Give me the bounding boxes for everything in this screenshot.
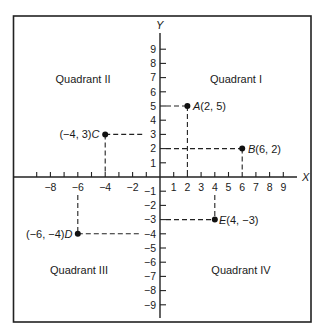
y-tick-label: 7 <box>150 71 156 83</box>
quadrant-i-label: Quadrant I <box>210 73 262 85</box>
point-c-dot <box>102 131 108 137</box>
point-a-dot <box>184 103 190 109</box>
x-tick-label: 2 <box>184 181 190 193</box>
y-tick-label: −7 <box>144 270 156 282</box>
x-tick-label: 5 <box>226 181 232 193</box>
y-tick-label: −8 <box>144 284 156 296</box>
y-tick-label: −2 <box>144 199 156 211</box>
point-e-label: E(4, −3) <box>219 214 258 226</box>
y-tick-label: −6 <box>144 256 156 268</box>
x-tick-label: 4 <box>212 181 218 193</box>
point-c-label: (−4, 3)C <box>59 128 99 140</box>
point-d-name: D <box>65 228 73 240</box>
x-tick-label: 1 <box>171 181 177 193</box>
y-tick-label: 2 <box>150 142 156 154</box>
point-d-coords: (−6, −4) <box>26 228 65 240</box>
y-tick-label: 3 <box>150 128 156 140</box>
point-a-name: A <box>192 100 200 112</box>
x-tick-label: 8 <box>267 181 273 193</box>
y-tick-label: 5 <box>150 100 156 112</box>
y-tick-label: −1 <box>144 185 156 197</box>
point-b-coords: (6, 2) <box>255 143 281 155</box>
point-b-dot <box>239 146 245 152</box>
quadrant-iii-label: Quadrant III <box>50 264 108 276</box>
point-a-coords: (2, 5) <box>200 100 226 112</box>
quadrant-ii-label: Quadrant II <box>55 73 110 85</box>
y-tick-label: 4 <box>150 114 156 126</box>
point-c-coords: (−4, 3) <box>59 128 91 140</box>
y-tick-label: −5 <box>144 242 156 254</box>
y-tick-label: −4 <box>144 228 156 240</box>
x-tick-label: −4 <box>99 181 111 193</box>
quadrant-iv-label: Quadrant IV <box>211 264 271 276</box>
y-tick-label: −9 <box>144 299 156 311</box>
y-tick-label: −3 <box>144 213 156 225</box>
x-tick-label: 7 <box>253 181 259 193</box>
x-axis-label: X <box>301 171 310 183</box>
point-c-name: C <box>92 128 100 140</box>
y-tick-label: 1 <box>150 157 156 169</box>
x-tick-label: −8 <box>44 181 56 193</box>
point-e-coords: (4, −3) <box>226 214 258 226</box>
y-tick-label: 9 <box>150 43 156 55</box>
cartesian-plane-diagram: X Y <box>0 0 325 333</box>
y-tick-label: 6 <box>150 86 156 98</box>
point-b-name: B <box>248 143 255 155</box>
point-e-dot <box>212 217 218 223</box>
point-b-label: B(6, 2) <box>248 143 281 155</box>
y-axis-label: Y <box>156 19 164 31</box>
x-tick-label: 9 <box>280 181 286 193</box>
point-d-label: (−6, −4)D <box>26 228 73 240</box>
point-a-label: A(2, 5) <box>192 100 226 112</box>
x-tick-label: 3 <box>198 181 204 193</box>
x-tick-label: 6 <box>239 181 245 193</box>
x-tick-label: −2 <box>127 181 139 193</box>
y-tick-label: 8 <box>150 57 156 69</box>
point-d-dot <box>75 231 81 237</box>
x-tick-label: −6 <box>72 181 84 193</box>
